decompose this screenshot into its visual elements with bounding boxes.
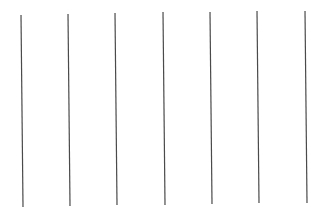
vertical-line-3	[115, 13, 117, 205]
vertical-line-6	[257, 11, 259, 203]
vertical-lines-drawing	[0, 0, 328, 213]
vertical-line-1	[21, 15, 23, 207]
vertical-line-4	[163, 12, 165, 205]
vertical-line-5	[210, 12, 212, 204]
line-canvas	[0, 0, 328, 213]
vertical-line-7	[305, 11, 307, 203]
vertical-line-2	[68, 14, 70, 206]
